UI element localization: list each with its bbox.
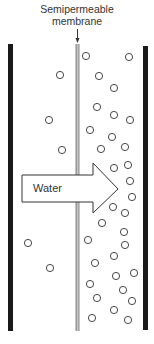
solute-particle (98, 219, 105, 226)
solute-particle (58, 146, 65, 153)
solute-particle (110, 252, 117, 259)
left-wall (8, 44, 13, 331)
solute-particle (93, 294, 100, 301)
solute-particle (95, 72, 102, 79)
solute-particle (86, 280, 93, 287)
solute-particle (108, 133, 115, 140)
solute-particle (84, 236, 91, 243)
solute-particle (124, 161, 131, 168)
solute-particle (93, 103, 100, 110)
solute-particle (126, 116, 133, 123)
solute-particle (124, 316, 131, 323)
solute-particle (24, 239, 31, 246)
solute-particle (120, 228, 127, 235)
solute-particle (110, 164, 117, 171)
solute-particle (91, 259, 98, 266)
water-label: Water (33, 182, 62, 194)
solute-particle (125, 53, 132, 60)
solute-particle (126, 177, 133, 184)
solute-particle (88, 314, 95, 321)
solute-particle (128, 297, 135, 304)
solute-particle (121, 241, 128, 248)
solute-particle (119, 286, 126, 293)
solute-particle (110, 111, 117, 118)
solute-particle (97, 145, 104, 152)
solute-particle (110, 306, 117, 313)
solute-particle (45, 116, 52, 123)
right-wall (143, 46, 148, 330)
solute-particle (121, 143, 128, 150)
solute-particle (112, 272, 119, 279)
solute-particle (56, 71, 63, 78)
osmosis-diagram (0, 0, 154, 344)
solute-particle (130, 269, 137, 276)
solute-particle (121, 209, 128, 216)
solute-particle (46, 264, 53, 271)
label-pointer-arrow (76, 29, 80, 43)
solute-particle (86, 126, 93, 133)
solute-particle (82, 52, 89, 59)
solute-particle (110, 84, 117, 91)
solute-particle (128, 193, 135, 200)
solute-particle (109, 203, 116, 210)
